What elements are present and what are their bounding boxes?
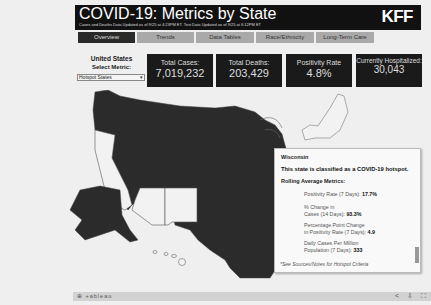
page-title: COVID-19: Metrics by State — [79, 5, 276, 22]
header-banner: COVID-19: Metrics by State Cases and Dea… — [75, 5, 421, 30]
stat-value: 30,043 — [356, 64, 422, 75]
metric-dropdown[interactable]: Hotspot States ▾ — [77, 74, 145, 81]
stat-total-cases: Total Cases: 7,019,232 — [147, 54, 213, 87]
stat-label: Positivity Rate — [286, 59, 352, 67]
tooltip-metric-positivity-change: Percentage Point Change in Positivity Ra… — [304, 222, 375, 235]
update-subtitle: Cases and Deaths Data Updated as of 9/25… — [79, 22, 261, 27]
stat-value: 203,429 — [216, 67, 282, 79]
tooltip-scrollbar[interactable] — [415, 247, 419, 263]
region-label: United States — [78, 55, 145, 62]
tooltip-footnote: *See Sources/Notes for Hotspot Criteria — [280, 261, 368, 267]
state-tooltip: Wisconsin This state is classified as a … — [274, 148, 421, 273]
tab-race-ethnicity[interactable]: Race/Ethnicity — [256, 32, 314, 43]
tooltip-classification: This state is classified as a COVID-19 h… — [281, 166, 408, 172]
footer-toolbar: < ⇩ ⛶ — [395, 292, 426, 300]
tab-data-tables[interactable]: Data Tables — [196, 32, 254, 43]
tooltip-rolling-label: Rolling Average Metrics: — [281, 178, 345, 184]
tab-trends[interactable]: Trends — [137, 32, 194, 43]
stat-label: Total Deaths: — [216, 59, 282, 67]
tableau-footer: ⊕ +ableau < ⇩ ⛶ — [73, 292, 431, 301]
tableau-logo[interactable]: ⊕ +ableau — [77, 293, 112, 299]
tooltip-state-name: Wisconsin — [281, 154, 308, 160]
stat-total-deaths: Total Deaths: 203,429 — [216, 54, 282, 87]
stat-label: Total Cases: — [147, 59, 213, 67]
select-metric-label: Select Metric: — [78, 64, 145, 70]
state-hawaii — [153, 251, 186, 266]
tooltip-metric-positivity: Positivity Rate (7 Days): 17.7% — [304, 191, 377, 198]
stat-value: 4.8% — [286, 67, 352, 79]
tab-bar: Overview Trends Data Tables Race/Ethnici… — [78, 32, 374, 43]
chevron-down-icon: ▾ — [140, 75, 143, 80]
stat-currently-hospitalized: Currently Hospitalized: 30,043 — [356, 54, 422, 87]
metric-dropdown-value: Hotspot States — [79, 74, 112, 80]
tab-long-term-care[interactable]: Long-Term Care — [316, 32, 374, 43]
tab-overview[interactable]: Overview — [78, 32, 135, 43]
stat-positivity-rate: Positivity Rate 4.8% — [286, 54, 352, 87]
fullscreen-icon[interactable]: ⛶ — [421, 292, 426, 300]
tooltip-metric-daily-cases: Daily Cases Per Million Population (7 Da… — [304, 240, 362, 253]
share-icon[interactable]: < — [395, 292, 399, 300]
kff-logo[interactable]: KFF — [381, 7, 413, 27]
stat-label: Currently Hospitalized: — [356, 57, 422, 64]
tooltip-metric-case-change: % Change in Cases (14 Days): 93.3% — [304, 204, 361, 217]
stat-value: 7,019,232 — [147, 67, 213, 79]
state-new-mexico — [165, 188, 197, 225]
northeast-region — [302, 94, 348, 140]
download-icon[interactable]: ⇩ — [407, 292, 413, 300]
dashboard: COVID-19: Metrics by State Cases and Dea… — [0, 0, 431, 305]
